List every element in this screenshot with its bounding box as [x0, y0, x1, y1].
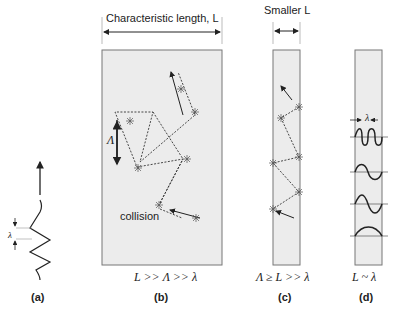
panel-b-tag: (b) [154, 291, 168, 303]
panel-d-tag: (d) [359, 291, 373, 303]
smaller-L-label: Smaller L [264, 4, 310, 16]
panel-c-relation: Λ ≥ L >> λ [256, 270, 309, 285]
characteristic-length-label: Characteristic length, L [106, 12, 219, 24]
panel-a-wave-packet [15, 162, 50, 280]
diagram-canvas [0, 0, 396, 315]
panel-d-relation: L ~ λ [352, 270, 376, 285]
smaller-L-dimension [273, 22, 300, 44]
collision-label: collision [120, 210, 159, 222]
panel-b-relation: L >> Λ >> λ [134, 270, 197, 285]
panel-a-lambda: λ [8, 230, 12, 240]
panel-a-tag: (a) [31, 291, 44, 303]
mean-free-path-label: Λ [107, 133, 114, 148]
panel-b-box [102, 50, 222, 265]
panel-d-lambda: λ [365, 112, 369, 123]
panel-c-tag: (c) [278, 291, 291, 303]
panel-d-box [355, 50, 382, 265]
